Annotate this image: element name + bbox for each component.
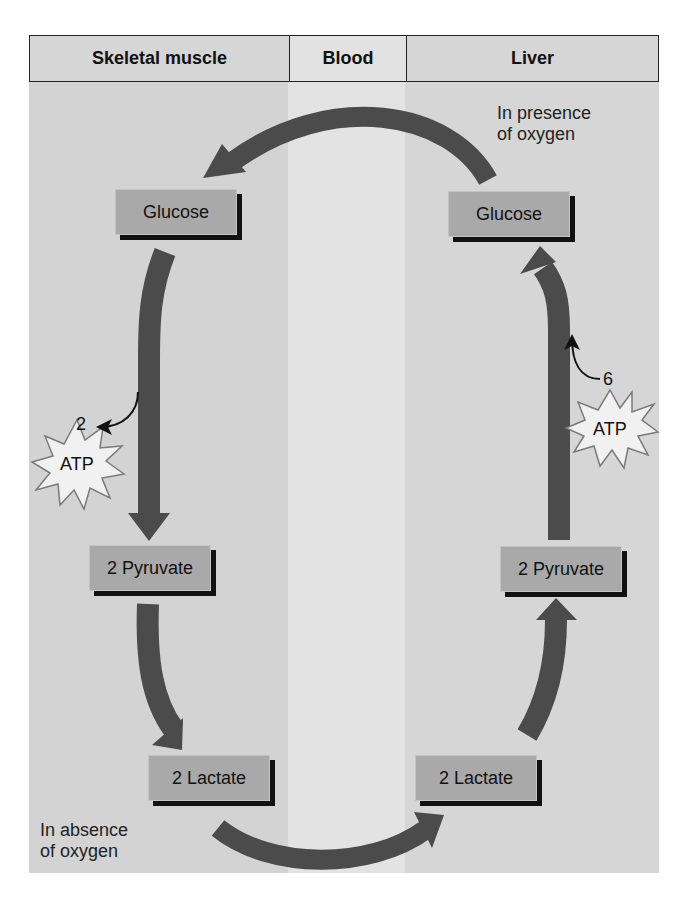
atp-yield-arrow-muscle	[100, 392, 138, 427]
atp-label-muscle: ATP	[60, 454, 94, 475]
atp-count-muscle: 2	[76, 414, 86, 435]
atp-yield-arrow-liver	[572, 338, 600, 379]
note-presence-of-oxygen: In presence of oxygen	[497, 103, 591, 145]
arrow-pyruvate-to-glucose	[520, 246, 559, 540]
node-muscle-glucose: Glucose	[115, 189, 237, 235]
arrow-liver-glucose-to-muscle-glucose	[203, 117, 488, 180]
note-absence-of-oxygen: In absence of oxygen	[40, 820, 128, 862]
node-liver-glucose: Glucose	[448, 191, 570, 237]
arrow-muscle-lactate-to-liver-lactate	[218, 812, 444, 860]
atp-label-liver: ATP	[593, 419, 627, 440]
arrow-glucose-to-pyruvate	[128, 252, 170, 541]
node-liver-lactate: 2 Lactate	[415, 755, 537, 801]
arrow-pyruvate-to-lactate	[148, 604, 183, 750]
arrow-lactate-to-pyruvate	[527, 598, 577, 735]
node-liver-pyruvate: 2 Pyruvate	[500, 546, 622, 592]
atp-count-liver: 6	[603, 369, 613, 390]
node-muscle-lactate: 2 Lactate	[148, 755, 270, 801]
cori-cycle-diagram: Skeletal muscle Blood Liver	[0, 0, 683, 899]
node-muscle-pyruvate: 2 Pyruvate	[89, 545, 211, 591]
